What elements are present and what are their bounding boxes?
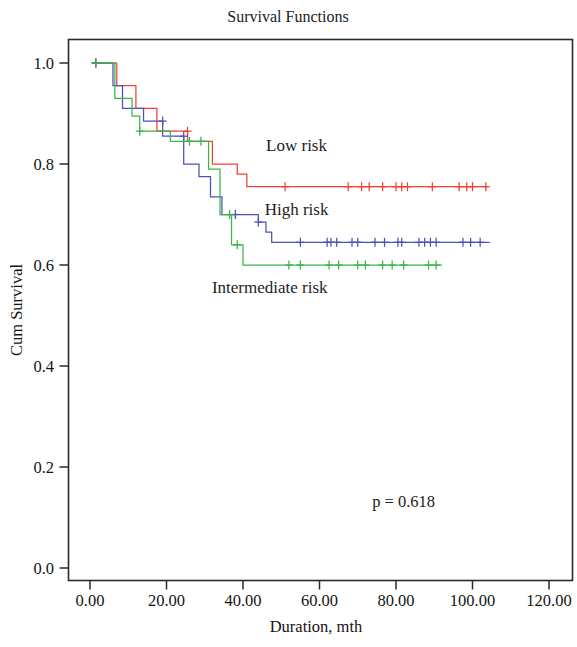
chart-background: [0, 0, 577, 647]
y-tick-label: 0.4: [33, 357, 54, 376]
x-tick-label: 20.00: [148, 591, 185, 610]
y-tick-label: 0.8: [33, 155, 54, 174]
y-tick-label: 0.0: [33, 559, 54, 578]
x-tick-label: 0.00: [76, 591, 105, 610]
x-tick-label: 40.00: [224, 591, 261, 610]
survival-functions-chart: Survival Functions 0.0020.0040.0060.0080…: [0, 0, 577, 647]
x-tick-label: 60.00: [301, 591, 338, 610]
chart-title: Survival Functions: [227, 8, 348, 25]
x-tick-label: 100.00: [450, 591, 495, 610]
y-tick-label: 0.2: [33, 458, 54, 477]
x-tick-label: 120.00: [526, 591, 571, 610]
intermediate-risk-label: Intermediate risk: [212, 278, 328, 297]
x-tick-label: 80.00: [377, 591, 414, 610]
x-axis-title: Duration, mth: [270, 617, 363, 636]
y-tick-label: 0.6: [33, 256, 54, 275]
y-axis-title: Cum Survival: [7, 264, 26, 357]
survival-plot-svg: Survival Functions 0.0020.0040.0060.0080…: [0, 0, 577, 647]
low-risk-label: Low risk: [266, 136, 327, 155]
y-tick-label: 1.0: [33, 54, 54, 73]
p-value: p = 0.618: [372, 492, 435, 511]
high-risk-label: High risk: [265, 200, 329, 219]
